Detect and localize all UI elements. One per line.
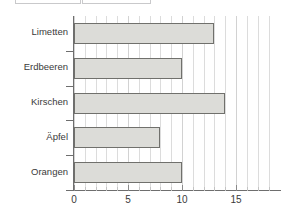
bar-limetten (74, 23, 214, 44)
gridline-x-17 (258, 16, 259, 190)
x-tick-13 (214, 187, 215, 191)
x-tick-7 (150, 187, 151, 191)
x-tick-18 (269, 187, 270, 191)
y-axis-label-erdbeeren: Erdbeeren (0, 61, 68, 72)
x-tick-15 (236, 185, 237, 191)
y-axis-category-labels: LimettenErdbeerenKirschenÄpfelOrangen (0, 16, 68, 190)
y-axis-label-limetten: Limetten (0, 26, 68, 37)
x-tick-17 (258, 187, 259, 191)
top-cutoff-box-left (15, 0, 81, 4)
x-tick-3 (106, 187, 107, 191)
bar-erdbeeren (74, 58, 182, 79)
y-axis-tick-2 (66, 86, 74, 87)
x-tick-4 (117, 187, 118, 191)
bar-äpfel (74, 127, 160, 148)
x-tick-0 (74, 185, 75, 191)
bar-kirschen (74, 93, 225, 114)
x-axis-label-0: 0 (71, 194, 77, 205)
bar-orangen (74, 162, 182, 183)
y-axis-tick-3 (66, 120, 74, 121)
x-tick-6 (139, 187, 140, 191)
gridline-x-18 (269, 16, 270, 190)
x-axis-line (66, 190, 281, 191)
y-axis-tick-1 (66, 51, 74, 52)
x-tick-2 (96, 187, 97, 191)
y-axis-label-kirschen: Kirschen (0, 96, 68, 107)
x-tick-16 (247, 187, 248, 191)
x-axis-label-10: 10 (176, 194, 187, 205)
gridline-x-15 (236, 16, 237, 190)
x-axis-label-5: 5 (125, 194, 131, 205)
chart-page: LimettenErdbeerenKirschenÄpfelOrangen 05… (0, 0, 281, 215)
x-tick-8 (160, 187, 161, 191)
x-tick-11 (193, 187, 194, 191)
x-tick-9 (171, 187, 172, 191)
x-tick-14 (225, 187, 226, 191)
x-tick-5 (128, 185, 129, 191)
gridline-x-16 (247, 16, 248, 190)
x-axis-label-15: 15 (230, 194, 241, 205)
y-axis-label-orangen: Orangen (0, 166, 68, 177)
gridline-x-14 (225, 16, 226, 190)
y-axis-label-äpfel: Äpfel (0, 131, 68, 142)
top-cutoff-box-right (82, 0, 151, 4)
x-tick-10 (182, 185, 183, 191)
x-tick-1 (85, 187, 86, 191)
x-tick-12 (204, 187, 205, 191)
y-axis-tick-4 (66, 155, 74, 156)
